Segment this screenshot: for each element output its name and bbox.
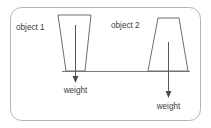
weight-label-2: weight xyxy=(156,102,181,111)
physics-diagram: object 1 object 2 weight weight xyxy=(0,0,211,128)
object-1-label: object 1 xyxy=(16,23,45,32)
figure-container: object 1 object 2 weight weight xyxy=(0,0,211,128)
weight-label-1: weight xyxy=(63,86,88,95)
object-2-label: object 2 xyxy=(111,21,140,30)
